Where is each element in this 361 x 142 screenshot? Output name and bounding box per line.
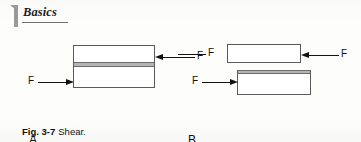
arrow-shaft: [309, 55, 339, 56]
arrow-shaft: [38, 82, 67, 83]
header-underline-divider: [22, 22, 68, 23]
arrow-shaft: [178, 54, 206, 55]
panel-b-upper-block: [227, 44, 301, 63]
panel-a-force-arrow-left: [38, 79, 74, 86]
panel-b-shear-plane: [238, 70, 310, 74]
page-title: Basics: [23, 5, 57, 20]
arrow-head-right-icon: [230, 79, 238, 85]
panel-a-shear-plane: [74, 62, 154, 67]
panel-b-force-label-far-left: F: [208, 48, 214, 58]
arrow-head-left-icon: [155, 54, 163, 60]
panel-b-force-arrow-left: [202, 79, 238, 86]
figure-shear-diagram: F F F F F A B: [0, 30, 361, 120]
panel-b-force-arrow-far-left: [178, 51, 206, 58]
panel-b-force-label-right: F: [341, 49, 347, 59]
panel-label-b: B: [188, 134, 196, 142]
panel-b-force-arrow-right: [301, 52, 339, 59]
panel-a-force-label-left: F: [28, 76, 34, 86]
figure-caption: Fig. 3-7Shear.: [22, 126, 86, 137]
panel-b-force-label-left: F: [192, 76, 198, 86]
page-canvas: Basics F F F F: [0, 0, 361, 142]
chapter-number-marker-icon: [14, 5, 18, 27]
arrow-head-right-icon: [66, 79, 74, 85]
figure-caption-text: Shear.: [58, 126, 85, 137]
figure-caption-number: Fig. 3-7: [22, 126, 55, 137]
arrow-shaft: [202, 82, 231, 83]
arrow-head-left-icon: [301, 52, 309, 58]
